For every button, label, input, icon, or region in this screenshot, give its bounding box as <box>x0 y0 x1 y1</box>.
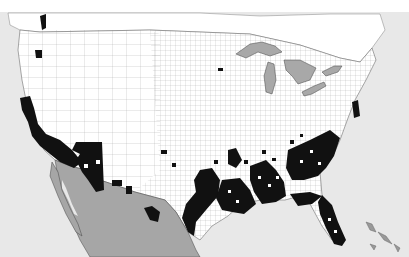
region-nm-county-2 <box>126 186 132 194</box>
region-scattered-7 <box>206 178 210 182</box>
top-margin <box>0 0 409 12</box>
region-scattered-1 <box>244 160 248 164</box>
region-midwest-county <box>218 68 223 71</box>
region-scattered-2 <box>262 150 266 154</box>
region-scattered-6 <box>214 160 218 164</box>
county-choropleth-map <box>0 0 409 257</box>
region-nm-county-1 <box>112 180 122 186</box>
region-scattered-4 <box>290 140 294 144</box>
region-kansas-county <box>161 150 167 154</box>
region-scattered-5 <box>300 134 303 137</box>
region-oklahoma-county <box>172 163 176 167</box>
region-oregon-portland <box>35 50 42 58</box>
region-scattered-3 <box>272 158 276 161</box>
